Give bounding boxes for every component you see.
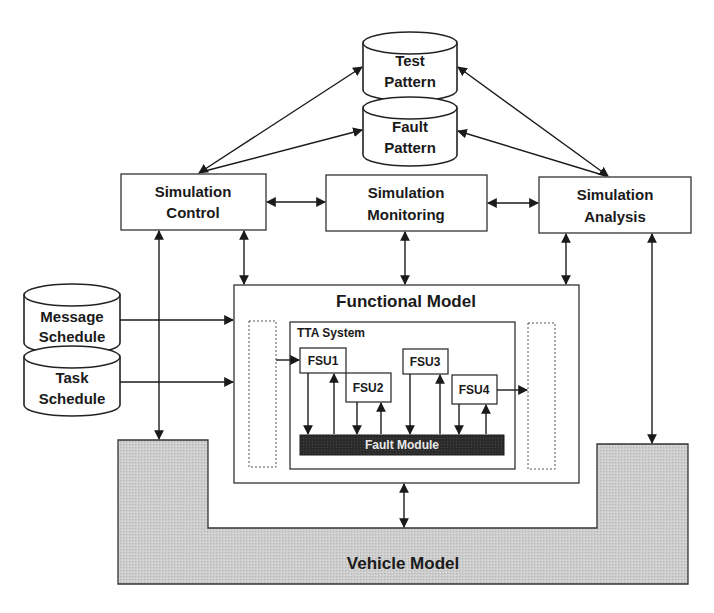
svg-text:Simulation: Simulation <box>155 183 232 200</box>
message-schedule-database: Message Schedule <box>24 284 120 354</box>
fault-module: Fault Module <box>300 435 504 455</box>
task-schedule-database: Task Schedule <box>24 346 120 416</box>
svg-text:Schedule: Schedule <box>39 390 106 407</box>
svg-text:FSU1: FSU1 <box>308 354 339 368</box>
svg-text:Analysis: Analysis <box>584 208 646 225</box>
simulation-monitoring-box: Simulation Monitoring <box>326 175 487 231</box>
svg-text:Test: Test <box>395 52 425 69</box>
svg-text:FSU4: FSU4 <box>459 383 490 397</box>
vehicle-model-label: Vehicle Model <box>347 554 459 573</box>
svg-text:Task: Task <box>55 369 89 386</box>
svg-text:Control: Control <box>166 204 219 221</box>
svg-text:Simulation: Simulation <box>577 186 654 203</box>
fsu4-box: FSU4 <box>452 375 497 404</box>
svg-text:TTA System: TTA System <box>297 326 365 340</box>
svg-text:FSU3: FSU3 <box>410 355 441 369</box>
svg-text:Pattern: Pattern <box>384 139 436 156</box>
svg-text:Monitoring: Monitoring <box>367 206 444 223</box>
fault-pattern-database: Fault Pattern <box>363 97 457 166</box>
svg-text:FSU2: FSU2 <box>353 381 384 395</box>
svg-text:Message: Message <box>40 308 103 325</box>
output-buffer <box>528 323 555 469</box>
svg-text:Simulation: Simulation <box>368 184 445 201</box>
input-buffer <box>249 321 276 467</box>
fsu3-box: FSU3 <box>403 349 448 374</box>
tta-system-box: TTA System Fault Module FSU1 FSU2 FSU3 <box>276 322 527 469</box>
tta-simulation-architecture-diagram: Vehicle Model Test Pattern Fault Pattern… <box>0 0 714 613</box>
fsu2-box: FSU2 <box>346 373 391 402</box>
fsu1-box: FSU1 <box>300 348 346 373</box>
svg-text:Fault Module: Fault Module <box>365 438 439 452</box>
svg-text:Pattern: Pattern <box>384 73 436 90</box>
simulation-control-box: Simulation Control <box>121 174 266 230</box>
test-pattern-database: Test Pattern <box>363 32 457 101</box>
functional-model-box: Functional Model TTA System Fault Module… <box>234 285 579 483</box>
svg-text:Schedule: Schedule <box>39 328 106 345</box>
simulation-analysis-box: Simulation Analysis <box>539 177 691 233</box>
functional-model-label: Functional Model <box>336 292 476 311</box>
svg-text:Fault: Fault <box>392 118 428 135</box>
